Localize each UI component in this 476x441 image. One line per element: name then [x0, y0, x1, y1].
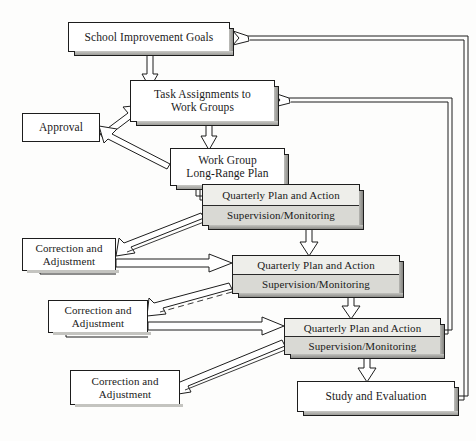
connector-quarterly-3-to-study-evaluation	[358, 355, 376, 382]
node-correction-adjustment-1[interactable]: Correction and Adjustment	[22, 238, 116, 271]
node-quarterly-plan-2-bottom: Supervision/Monitoring	[233, 275, 399, 293]
connector-task-assignments-to-long-range-plan	[201, 122, 217, 150]
guide-line-1	[127, 222, 204, 252]
node-quarterly-plan-1-top: Quarterly Plan and Action	[203, 185, 359, 206]
node-approval[interactable]: Approval	[22, 113, 100, 142]
node-quarterly-plan-2-top: Quarterly Plan and Action	[233, 256, 399, 275]
node-correction-adjustment-2[interactable]: Correction and Adjustment	[48, 300, 148, 333]
node-correction-3-line2: Adjustment	[99, 388, 151, 400]
node-quarterly-plan-2[interactable]: Quarterly Plan and Action Supervision/Mo…	[232, 255, 400, 294]
diagram-canvas: School Improvement Goals Task Assignment…	[0, 0, 476, 441]
connector-long-range-plan-to-approval	[99, 126, 170, 169]
node-quarterly-plan-1-bottom: Supervision/Monitoring	[203, 206, 359, 226]
node-task-assignments-line2: Work Groups	[171, 101, 234, 114]
node-correction-2-line2: Adjustment	[72, 317, 124, 329]
node-correction-adjustment-3[interactable]: Correction and Adjustment	[70, 370, 180, 405]
connector-quarterly-1-to-correction-1	[116, 213, 204, 256]
node-quarterly-plan-1[interactable]: Quarterly Plan and Action Supervision/Mo…	[202, 184, 360, 226]
node-task-assignments-line1: Task Assignments to	[154, 88, 251, 101]
node-correction-2-line1: Correction and	[64, 304, 131, 316]
node-correction-3-line1: Correction and	[91, 375, 158, 387]
node-long-range-plan-line1: Work Group	[198, 154, 257, 167]
connector-quarterly-2-to-correction-2	[147, 283, 232, 316]
node-study-and-evaluation[interactable]: Study and Evaluation	[297, 381, 455, 412]
guide-line-2	[160, 292, 232, 312]
node-long-range-plan-line2: Long-Range Plan	[186, 167, 268, 180]
connector-correction-1-to-quarterly-2	[116, 254, 232, 272]
connector-quarterly-3-to-correction-3	[172, 340, 285, 395]
node-study-evaluation-line1: Study and Evaluation	[325, 390, 426, 403]
node-correction-1-line1: Correction and	[35, 242, 102, 254]
node-quarterly-plan-3-bottom: Supervision/Monitoring	[285, 337, 440, 354]
node-correction-1-line2: Adjustment	[43, 255, 95, 267]
node-approval-line1: Approval	[39, 121, 83, 134]
connector-correction-2-to-quarterly-3	[148, 317, 284, 335]
node-school-improvement-goals[interactable]: School Improvement Goals	[68, 22, 230, 52]
node-quarterly-plan-3-top: Quarterly Plan and Action	[285, 319, 440, 337]
node-quarterly-plan-3[interactable]: Quarterly Plan and Action Supervision/Mo…	[284, 318, 441, 355]
connector-quarterly-1-to-quarterly-2	[300, 226, 318, 256]
node-work-group-long-range-plan[interactable]: Work Group Long-Range Plan	[170, 148, 285, 186]
node-task-assignments[interactable]: Task Assignments to Work Groups	[130, 80, 275, 122]
guide-line-3	[185, 350, 285, 390]
arrowhead-study-evaluation-to-goals	[233, 31, 249, 45]
node-school-improvement-goals-line1: School Improvement Goals	[85, 31, 214, 44]
